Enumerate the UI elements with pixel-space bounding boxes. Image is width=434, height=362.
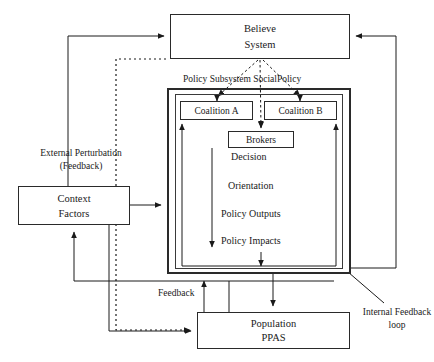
connector-internal-feedback-leader [348, 272, 384, 303]
brokers-box[interactable]: Brokers [228, 131, 294, 148]
context-factors-line1: Context [57, 193, 90, 204]
feedback-label: Feedback [158, 288, 194, 298]
population-line2: PPAS [261, 332, 285, 343]
brokers-label: Brokers [246, 135, 276, 145]
flow-step-policy-outputs: Policy Outputs [221, 208, 281, 219]
connector-subsystem-to-believe [349, 36, 396, 268]
flow-step-orientation: Orientation [228, 180, 274, 191]
coalition-b-box[interactable]: Coalition B [264, 101, 337, 120]
coalition-a-box[interactable]: Coalition A [180, 101, 253, 120]
flow-step-decision: Decision [231, 151, 267, 162]
flow-step-policy-impacts: Policy Impacts [221, 235, 281, 246]
believe-system-line1: Believe [244, 23, 276, 34]
diagram-canvas: Believe System Policy Subsystem SocialPo… [0, 0, 434, 362]
external-perturbation-label: External Perturbation (Feedback) [22, 147, 140, 173]
believe-system-box[interactable]: Believe System [170, 14, 350, 59]
policy-subsystem-label: Policy Subsystem SocialPolicy [183, 74, 301, 84]
internal-feedback-loop-label: Internal Feedback loop [362, 306, 432, 332]
coalition-a-label: Coalition A [194, 106, 238, 116]
population-line1: Population [251, 318, 297, 329]
coalition-b-label: Coalition B [278, 106, 322, 116]
population-ppas-box[interactable]: Population PPAS [197, 312, 350, 349]
context-factors-line2: Factors [59, 208, 90, 219]
believe-system-line2: System [245, 39, 276, 50]
context-factors-box[interactable]: Context Factors [18, 186, 130, 225]
